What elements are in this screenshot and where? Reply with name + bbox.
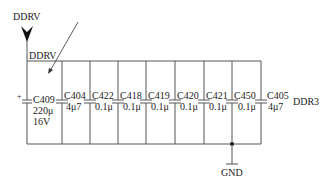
svg-text:0.1μ: 0.1μ xyxy=(95,101,113,112)
power-arrow-icon xyxy=(21,26,33,42)
svg-text:4μ7: 4μ7 xyxy=(66,101,81,112)
svg-text:0.1μ: 0.1μ xyxy=(123,101,141,112)
svg-text:220μ: 220μ xyxy=(33,105,53,116)
svg-text:0.1μ: 0.1μ xyxy=(151,101,169,112)
svg-text:0.1μ: 0.1μ xyxy=(180,101,198,112)
capacitor-c420: C420 0.1μ xyxy=(169,61,199,144)
svg-text:C420: C420 xyxy=(177,90,199,101)
net-pointer-arrow-icon xyxy=(48,68,53,74)
svg-text:C419: C419 xyxy=(148,90,170,101)
svg-text:C409: C409 xyxy=(33,94,55,105)
svg-text:0.1μ: 0.1μ xyxy=(238,101,256,112)
svg-text:+: + xyxy=(17,92,22,101)
net-pointer-line xyxy=(50,22,78,71)
svg-text:C450: C450 xyxy=(234,90,256,101)
capacitor-c422: C422 0.1μ xyxy=(84,61,114,144)
schematic-canvas: DDRV DDRV + C409 220μ 16V C404 xyxy=(0,0,332,185)
capacitor-c405: C405 4μ7 xyxy=(255,61,289,144)
capacitor-c409: + C409 220μ 16V xyxy=(17,61,55,144)
svg-text:16V: 16V xyxy=(33,116,51,127)
svg-text:C422: C422 xyxy=(92,90,114,101)
svg-text:C418: C418 xyxy=(120,90,142,101)
ground-label: GND xyxy=(221,167,243,178)
schematic-drawing: DDRV DDRV + C409 220μ 16V C404 xyxy=(0,0,332,185)
capacitor-c404: C404 4μ7 xyxy=(56,61,86,144)
capacitor-c450: C450 0.1μ xyxy=(226,61,256,144)
rail-label: DDR3 xyxy=(293,96,319,107)
svg-text:0.1μ: 0.1μ xyxy=(209,101,227,112)
svg-text:4μ7: 4μ7 xyxy=(268,101,283,112)
svg-text:C405: C405 xyxy=(267,90,289,101)
svg-text:C404: C404 xyxy=(64,90,86,101)
net-label: DDRV xyxy=(29,50,57,61)
capacitor-c421: C421 0.1μ xyxy=(198,61,228,144)
svg-text:C421: C421 xyxy=(206,90,228,101)
power-port-label: DDRV xyxy=(13,11,41,22)
capacitor-c419: C419 0.1μ xyxy=(140,61,170,144)
capacitor-c418: C418 0.1μ xyxy=(112,61,142,144)
